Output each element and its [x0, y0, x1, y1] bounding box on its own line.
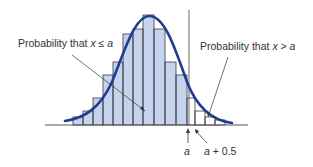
a-half-arrow [196, 131, 207, 143]
normal-approximation-diagram: Probability that x ≤ a Probability that … [0, 0, 313, 167]
shaded-bars [73, 15, 187, 125]
right-pointer [208, 57, 228, 117]
label-prob-gt-a: Probability that x > a [200, 40, 295, 52]
label-prob-le-a: Probability that x ≤ a [18, 37, 113, 49]
label-a: a [184, 145, 190, 157]
label-a-plus-half: a + 0.5 [204, 145, 236, 157]
histogram-figure [0, 0, 313, 167]
